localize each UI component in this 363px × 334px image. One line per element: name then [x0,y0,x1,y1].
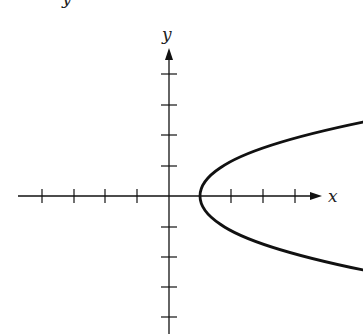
y-axis: y [161,24,177,334]
parabola-graph: y x y [0,0,363,334]
y-axis-arrow-icon [165,48,173,60]
x-axis-arrow-icon [310,192,322,200]
cut-off-label: y [61,0,72,8]
x-axis: x [18,186,338,206]
x-axis-label: x [328,186,338,206]
y-axis-label: y [161,24,172,44]
